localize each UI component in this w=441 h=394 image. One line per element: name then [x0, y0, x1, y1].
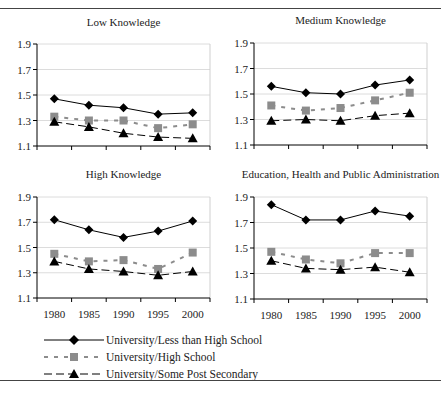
x-tick-label: 1995 — [364, 309, 387, 321]
x-tick-label: 1990 — [330, 309, 353, 321]
panel-title: High Knowledge — [86, 168, 162, 180]
diamond-marker-icon — [267, 200, 276, 209]
legend-label: University/Some Post Secondary — [106, 368, 258, 380]
diamond-marker-icon — [188, 216, 197, 225]
triangle-marker-icon — [44, 368, 104, 380]
diamond-marker-icon — [84, 101, 93, 110]
square-marker-icon — [302, 107, 310, 115]
diamond-marker-icon — [405, 75, 414, 84]
y-tick-label: 1.5 — [17, 89, 31, 101]
diamond-marker-icon — [405, 212, 414, 221]
square-marker-icon — [337, 104, 345, 112]
y-tick-label: 1.9 — [17, 191, 31, 203]
legend-item-less-than-high-school: University/Less than High School — [44, 332, 262, 348]
triangle-marker-icon — [188, 266, 198, 275]
y-tick-label: 1.7 — [234, 63, 248, 75]
square-marker-icon — [189, 120, 197, 128]
square-marker-icon — [371, 96, 379, 104]
y-tick-label: 1.3 — [17, 115, 31, 127]
square-marker-icon — [406, 249, 414, 257]
bottom-rule — [0, 380, 441, 381]
diamond-marker-icon — [371, 81, 380, 90]
square-marker-icon — [120, 256, 128, 264]
x-tick-label: 1990 — [113, 308, 136, 320]
triangle-marker-icon — [370, 262, 380, 271]
y-tick-label: 1.3 — [234, 268, 248, 280]
panel-title: Low Knowledge — [87, 16, 161, 28]
y-tick-label: 1.3 — [17, 267, 31, 279]
y-tick-label: 1.5 — [17, 242, 31, 254]
legend-label: University/High School — [106, 351, 216, 363]
diamond-marker-icon — [44, 334, 104, 346]
diamond-marker-icon — [50, 94, 59, 103]
diamond-marker-icon — [50, 215, 59, 224]
y-tick-label: 1.1 — [17, 140, 31, 152]
panel-3: High Knowledge1.11.31.51.71.919801985199… — [17, 168, 210, 320]
square-marker-icon — [302, 255, 310, 263]
x-tick-label: 2000 — [399, 309, 422, 321]
square-marker-icon — [267, 101, 275, 109]
triangle-marker-icon — [370, 111, 380, 120]
diamond-marker-icon — [84, 225, 93, 234]
square-marker-icon — [120, 117, 128, 125]
diamond-marker-icon — [301, 88, 310, 97]
panel-2: Medium Knowledge1.11.31.51.71.9 — [234, 14, 427, 151]
diamond-marker-icon — [336, 215, 345, 224]
diamond-marker-icon — [336, 90, 345, 99]
y-tick-label: 1.1 — [17, 292, 31, 304]
y-tick-label: 1.5 — [234, 88, 248, 100]
diamond-marker-icon — [154, 110, 163, 119]
y-tick-label: 1.9 — [234, 191, 248, 203]
square-marker-icon — [154, 124, 162, 132]
diamond-marker-icon — [154, 227, 163, 236]
panel-title: Education, Health and Public Administrat… — [242, 168, 440, 180]
diamond-marker-icon — [119, 103, 128, 112]
diamond-marker-icon — [119, 233, 128, 242]
x-tick-label: 2000 — [182, 308, 205, 320]
y-tick-label: 1.7 — [234, 217, 248, 229]
square-marker-icon — [44, 351, 104, 363]
y-tick-label: 1.1 — [234, 139, 248, 151]
x-tick-label: 1985 — [295, 309, 318, 321]
x-tick-label: 1995 — [147, 308, 170, 320]
diamond-marker-icon — [267, 82, 276, 91]
x-tick-label: 1985 — [78, 308, 101, 320]
x-tick-label: 1980 — [260, 309, 283, 321]
legend-label: University/Less than High School — [106, 334, 262, 346]
square-marker-icon — [267, 248, 275, 256]
triangle-marker-icon — [266, 256, 276, 265]
x-tick-label: 1980 — [43, 308, 66, 320]
y-tick-label: 1.1 — [234, 293, 248, 305]
y-tick-label: 1.3 — [234, 114, 248, 126]
square-marker-icon — [371, 249, 379, 257]
y-tick-label: 1.7 — [17, 216, 31, 228]
y-tick-label: 1.7 — [17, 64, 31, 76]
square-marker-icon — [189, 249, 197, 257]
diamond-marker-icon — [371, 207, 380, 216]
panel-1: Low Knowledge1.11.31.51.71.9 — [17, 16, 210, 152]
diamond-marker-icon — [301, 215, 310, 224]
legend-item-high-school: University/High School — [44, 349, 216, 365]
y-tick-label: 1.9 — [17, 38, 31, 50]
diamond-marker-icon — [188, 108, 197, 117]
y-tick-label: 1.5 — [234, 242, 248, 254]
panel-title: Medium Knowledge — [295, 14, 386, 26]
triangle-marker-icon — [405, 108, 415, 117]
square-marker-icon — [406, 89, 414, 97]
y-tick-label: 1.9 — [234, 37, 248, 49]
panel-4: Education, Health and Public Administrat… — [234, 168, 440, 321]
